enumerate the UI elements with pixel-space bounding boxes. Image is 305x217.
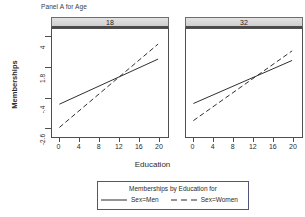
x-tick-mark: [193, 138, 194, 142]
x-tick-mark: [59, 138, 60, 142]
y-tick-mark: [45, 98, 51, 99]
series-line-sex-women: [59, 44, 158, 127]
plot-lines-18: [52, 29, 168, 137]
y-tick-label: 4: [39, 36, 46, 60]
x-tick-mark: [293, 138, 294, 142]
panel-strip-32: 32: [185, 17, 303, 28]
x-tick-label: 4: [205, 143, 221, 150]
x-tick-mark: [159, 138, 160, 142]
plot-panel-18: [51, 28, 169, 138]
legend: Memberships by Education for Sex=Men Sex…: [97, 181, 249, 210]
legend-entries: Sex=Men Sex=Women: [98, 196, 248, 203]
x-tick-label: 12: [245, 143, 261, 150]
series-line-sex-men: [59, 59, 158, 104]
chart-figure: Panel A for Age Memberships Education 18…: [0, 0, 305, 217]
plot-panel-32: [185, 28, 303, 138]
x-tick-label: 16: [131, 143, 147, 150]
x-tick-mark: [273, 138, 274, 142]
x-tick-mark: [233, 138, 234, 142]
y-tick-mark: [45, 36, 51, 37]
y-tick-mark: [45, 67, 51, 68]
legend-label-men: Sex=Men: [131, 196, 159, 203]
series-line-sex-women: [193, 51, 292, 121]
x-tick-mark: [213, 138, 214, 142]
legend-label-women: Sex=Women: [201, 196, 238, 203]
x-tick-label: 12: [111, 143, 127, 150]
x-tick-label: 20: [151, 143, 167, 150]
x-tick-mark: [119, 138, 120, 142]
x-axis-title: Education: [0, 160, 305, 169]
panel-caption: Panel A for Age: [41, 3, 87, 10]
x-tick-label: 4: [71, 143, 87, 150]
legend-title: Memberships by Education for: [98, 185, 248, 192]
x-tick-label: 0: [185, 143, 201, 150]
x-tick-label: 8: [91, 143, 107, 150]
y-tick-mark: [45, 128, 51, 129]
legend-key-women: [170, 197, 198, 203]
x-tick-mark: [79, 138, 80, 142]
x-tick-label: 16: [265, 143, 281, 150]
legend-key-men: [100, 197, 128, 203]
x-tick-label: 8: [225, 143, 241, 150]
y-tick-label: 1.8: [39, 66, 46, 90]
y-tick-label: -.4: [39, 97, 46, 121]
plot-lines-32: [186, 29, 302, 137]
x-tick-label: 0: [51, 143, 67, 150]
y-axis-title: Memberships: [10, 45, 19, 125]
x-tick-mark: [99, 138, 100, 142]
panel-strip-18: 18: [51, 17, 169, 28]
series-line-sex-men: [193, 60, 292, 103]
x-tick-mark: [139, 138, 140, 142]
x-tick-label: 20: [285, 143, 301, 150]
x-tick-mark: [253, 138, 254, 142]
y-tick-label: -2.6: [39, 128, 46, 152]
